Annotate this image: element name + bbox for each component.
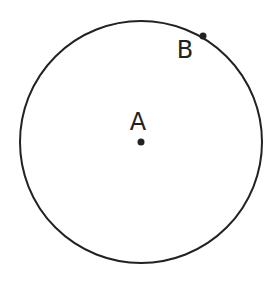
- circle-diagram: A B: [0, 0, 278, 281]
- point-b-dot: [200, 33, 207, 40]
- point-b-label: B: [177, 36, 193, 64]
- point-a-label: A: [130, 108, 147, 136]
- point-a-dot: [138, 139, 145, 146]
